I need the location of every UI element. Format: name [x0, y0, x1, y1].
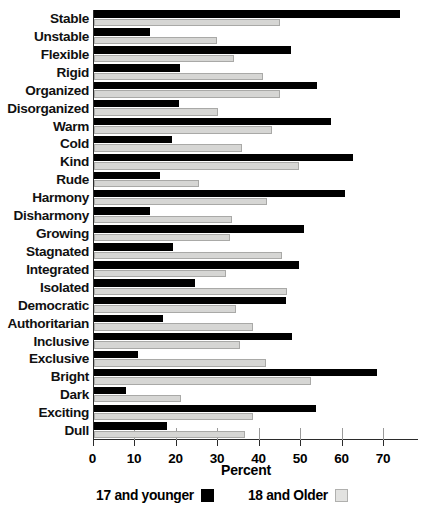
bar-row: [93, 64, 418, 81]
bar-18-and-older: [94, 162, 299, 169]
bar-row: [93, 261, 418, 278]
bar-18-and-older: [94, 431, 245, 438]
bar-row: [93, 386, 418, 403]
legend-label: 17 and younger: [96, 488, 194, 503]
x-tick-mark: [93, 440, 94, 446]
bar-17-and-younger: [94, 297, 286, 304]
category-label: Harmony: [1, 190, 89, 205]
bar-17-and-younger: [94, 405, 316, 412]
x-tick-mark: [300, 440, 301, 446]
bar-17-and-younger: [94, 28, 150, 35]
bar-17-and-younger: [94, 64, 180, 71]
legend-item-18-and-older: 18 and Older: [248, 488, 348, 503]
bar-17-and-younger: [94, 369, 377, 376]
category-label: Authoritarian: [1, 316, 89, 331]
category-label: Kind: [1, 154, 89, 169]
category-label: Exclusive: [1, 351, 89, 366]
bar-17-and-younger: [94, 100, 179, 107]
category-label: Democratic: [1, 298, 89, 313]
bar-17-and-younger: [94, 10, 400, 17]
bar-17-and-younger: [94, 118, 331, 125]
bar-18-and-older: [94, 234, 230, 241]
bar-row: [93, 225, 418, 242]
plot-area: 010203040506070: [93, 10, 418, 440]
bar-18-and-older: [94, 73, 263, 80]
bar-row: [93, 315, 418, 332]
bar-row: [93, 404, 418, 421]
bar-18-and-older: [94, 305, 236, 312]
bar-18-and-older: [94, 270, 226, 277]
bar-17-and-younger: [94, 351, 138, 358]
bar-18-and-older: [94, 90, 280, 97]
bar-18-and-older: [94, 288, 287, 295]
bar-row: [93, 297, 418, 314]
legend-swatch-black-square: [201, 489, 214, 502]
bar-18-and-older: [94, 198, 267, 205]
bar-row: [93, 82, 418, 99]
category-label: Rigid: [1, 65, 89, 80]
horizontal-bar-chart: StableUnstableFlexibleRigidOrganizedDiso…: [0, 0, 422, 519]
bar-18-and-older: [94, 377, 311, 384]
category-label: Warm: [1, 119, 89, 134]
category-label: Unstable: [1, 29, 89, 44]
x-tick-mark: [176, 440, 177, 446]
bar-row: [93, 153, 418, 170]
category-label: Dull: [1, 423, 89, 438]
bar-17-and-younger: [94, 315, 163, 322]
category-label-column: StableUnstableFlexibleRigidOrganizedDiso…: [0, 10, 89, 440]
category-label: Dark: [1, 387, 89, 402]
bar-row: [93, 279, 418, 296]
bar-18-and-older: [94, 37, 217, 44]
category-label: Flexible: [1, 47, 89, 62]
x-tick-mark: [342, 440, 343, 446]
x-tick-mark: [383, 440, 384, 446]
bar-17-and-younger: [94, 172, 160, 179]
category-label: Disharmony: [1, 208, 89, 223]
bar-row: [93, 422, 418, 439]
bar-row: [93, 207, 418, 224]
bar-18-and-older: [94, 180, 199, 187]
bar-17-and-younger: [94, 279, 195, 286]
bar-18-and-older: [94, 144, 242, 151]
bar-17-and-younger: [94, 261, 299, 268]
bar-18-and-older: [94, 19, 280, 26]
bar-row: [93, 243, 418, 260]
bar-17-and-younger: [94, 243, 173, 250]
bar-18-and-older: [94, 108, 218, 115]
bar-row: [93, 135, 418, 152]
x-axis-title-text: Percent: [221, 462, 271, 478]
category-label: Growing: [1, 226, 89, 241]
bar-18-and-older: [94, 252, 282, 259]
bar-row: [93, 10, 418, 27]
legend-label: 18 and Older: [248, 488, 328, 503]
category-label: Stagnated: [1, 244, 89, 259]
bar-row: [93, 118, 418, 135]
legend-item-17-and-younger: 17 and younger: [96, 488, 214, 503]
bar-row: [93, 171, 418, 188]
bar-18-and-older: [94, 126, 272, 133]
category-label: Rude: [1, 172, 89, 187]
bar-18-and-older: [94, 55, 234, 62]
category-label: Organized: [1, 83, 89, 98]
bar-17-and-younger: [94, 46, 291, 53]
bar-row: [93, 368, 418, 385]
bar-18-and-older: [94, 341, 240, 348]
x-tick-mark: [259, 440, 260, 446]
category-label: Cold: [1, 136, 89, 151]
bar-18-and-older: [94, 413, 253, 420]
bar-17-and-younger: [94, 387, 126, 394]
category-label: Bright: [1, 369, 89, 384]
category-label: Integrated: [1, 262, 89, 277]
bar-17-and-younger: [94, 207, 150, 214]
bar-17-and-younger: [94, 190, 345, 197]
category-label: Isolated: [1, 280, 89, 295]
bar-17-and-younger: [94, 82, 317, 89]
category-label: Inclusive: [1, 334, 89, 349]
bar-17-and-younger: [94, 333, 292, 340]
bar-row: [93, 333, 418, 350]
bar-17-and-younger: [94, 136, 172, 143]
x-axis-title: Percent: [0, 462, 422, 478]
category-label: Stable: [1, 11, 89, 26]
bar-18-and-older: [94, 216, 232, 223]
x-tick-mark: [217, 440, 218, 446]
